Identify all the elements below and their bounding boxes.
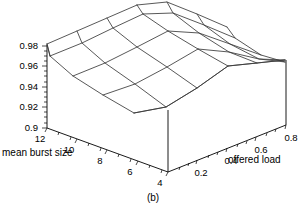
mesh-col-y02 bbox=[47, 44, 134, 113]
y-axis-label: offered load bbox=[228, 155, 281, 165]
z-tick-094: 0.94 bbox=[20, 81, 39, 92]
y-tick-02: 0.2 bbox=[194, 167, 207, 178]
x-tick-12: 12 bbox=[35, 133, 46, 144]
mesh-row-x4 bbox=[134, 66, 228, 113]
z-tick-096: 0.96 bbox=[20, 60, 39, 71]
mesh-front-left-edge bbox=[134, 60, 285, 113]
z-tick-090: 0.9 bbox=[25, 122, 38, 133]
mesh-col-y10 bbox=[167, 2, 257, 63]
figure-3d-surface-plot: 0.98 0.96 0.94 0.92 0.9 12 10 8 6 4 0.2 … bbox=[0, 0, 306, 213]
mesh-row-x6b bbox=[198, 49, 285, 62]
figure-caption: (b) bbox=[0, 192, 306, 203]
z-tick-098: 0.98 bbox=[20, 40, 39, 51]
z-axis-ticks bbox=[42, 46, 47, 128]
surface-plot-canvas: 0.98 0.96 0.94 0.92 0.9 12 10 8 6 4 0.2 … bbox=[0, 0, 306, 213]
x-tick-8: 8 bbox=[97, 155, 102, 166]
y-tick-08: 0.8 bbox=[284, 132, 297, 143]
mesh-row-x12b bbox=[137, 2, 227, 27]
x-tick-4: 4 bbox=[157, 177, 162, 188]
mesh-row-x10 bbox=[50, 14, 143, 56]
wireframe-mesh-surface bbox=[47, 2, 285, 113]
x-axis-label: mean burst size bbox=[2, 148, 73, 158]
mesh-col-y06 bbox=[107, 18, 197, 88]
mesh-row-x8 bbox=[73, 31, 168, 76]
mesh-col-y14 bbox=[227, 27, 285, 62]
x-tick-6: 6 bbox=[127, 166, 132, 177]
z-tick-092: 0.92 bbox=[20, 101, 39, 112]
